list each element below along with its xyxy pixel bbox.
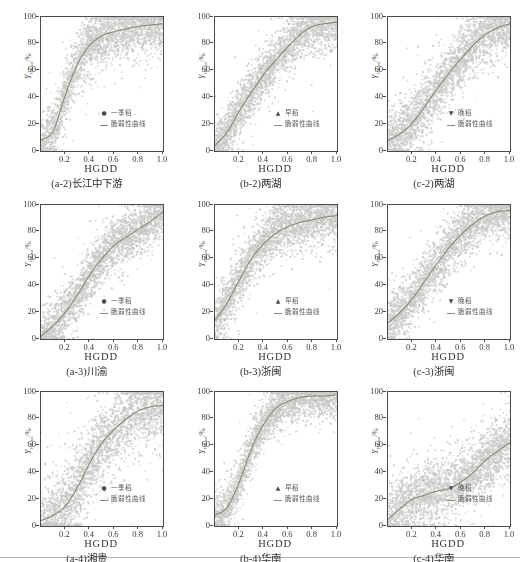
y-tick-mark	[383, 391, 386, 392]
scatter-plot-canvas	[41, 17, 163, 151]
y-tick-label: 100	[174, 11, 210, 21]
legend: ●一季稻 脆弱性曲线	[99, 295, 161, 317]
x-tick-label: 0.4	[257, 154, 268, 164]
y-tick-mark	[210, 525, 213, 526]
y-tick-label: 0	[347, 520, 383, 530]
y-tick-mark	[383, 257, 386, 258]
x-tick-label: 0.8	[132, 154, 143, 164]
y-tick-label: 20	[0, 118, 36, 128]
y-tick-label: 100	[174, 386, 210, 396]
x-axis-label: HGDD	[214, 163, 336, 174]
y-tick-mark	[36, 42, 39, 43]
legend-entry-samples: ▼晚稻	[446, 482, 508, 493]
series-label: 早稻	[285, 482, 299, 493]
curve-line-icon	[100, 125, 108, 126]
x-tick-label: 1.0	[504, 342, 515, 352]
x-tick-label: 0.6	[282, 342, 293, 352]
legend: ▲早稻 脆弱性曲线	[273, 107, 335, 129]
y-tick-label: 80	[0, 37, 36, 47]
series-label: 一季稻	[111, 295, 132, 306]
subplot-caption: (c-4)华南	[347, 550, 520, 562]
series-label: 一季稻	[111, 107, 132, 118]
y-tick-mark	[383, 230, 386, 231]
scatter-plot-canvas	[388, 205, 510, 339]
curve-line-icon	[447, 313, 455, 314]
y-tick-label: 80	[174, 225, 210, 235]
y-tick-mark	[36, 230, 39, 231]
x-tick-label: 0.2	[59, 529, 70, 539]
legend: ●一季稻 脆弱性曲线	[99, 482, 161, 504]
y-tick-label: 20	[347, 306, 383, 316]
y-tick-label: 40	[0, 279, 36, 289]
x-tick-label: 0.4	[83, 529, 94, 539]
y-tick-label: 80	[174, 412, 210, 422]
series-label: 晚稻	[458, 295, 472, 306]
y-tick-label: 0	[174, 145, 210, 155]
y-tick-mark	[383, 123, 386, 124]
y-tick-label: 80	[347, 37, 383, 47]
x-tick-label: 0.6	[282, 529, 293, 539]
y-tick-label: 40	[347, 466, 383, 476]
scatter-plot-canvas	[215, 17, 337, 151]
series-marker-icon: ●	[99, 295, 109, 306]
x-tick-label: 0.6	[108, 529, 119, 539]
y-tick-label: 40	[174, 279, 210, 289]
legend-entry-curve: 脆弱性曲线	[446, 493, 508, 504]
y-tick-label: 80	[0, 412, 36, 422]
curve-line-icon	[274, 500, 282, 501]
y-tick-mark	[210, 123, 213, 124]
y-tick-label: 0	[174, 333, 210, 343]
y-tick-label: 100	[347, 199, 383, 209]
y-tick-mark	[210, 42, 213, 43]
y-tick-mark	[383, 284, 386, 285]
legend-entry-samples: ●一季稻	[99, 482, 161, 493]
y-tick-label: 0	[347, 333, 383, 343]
curve-line-icon	[447, 125, 455, 126]
x-tick-label: 0.4	[430, 154, 441, 164]
y-tick-label: 40	[0, 91, 36, 101]
x-tick-label: 0.8	[306, 342, 317, 352]
y-tick-mark	[383, 471, 386, 472]
y-tick-label: 60	[174, 252, 210, 262]
legend-entry-curve: 脆弱性曲线	[99, 306, 161, 317]
x-tick-label: 0.8	[132, 342, 143, 352]
y-tick-label: 0	[347, 145, 383, 155]
legend: ●一季稻 脆弱性曲线	[99, 107, 161, 129]
y-tick-mark	[210, 69, 213, 70]
x-tick-label: 0.6	[108, 154, 119, 164]
subplot-b-4: YHloss/% ▲早稻 脆弱性曲线 HGDD (b-4)华南 0.20.40.…	[174, 375, 347, 562]
y-tick-mark	[210, 230, 213, 231]
y-tick-label: 60	[174, 64, 210, 74]
y-tick-mark	[210, 16, 213, 17]
subplot-a-2: YHloss/% ●一季稻 脆弱性曲线 HGDD (a-2)长江中下游 0.20…	[0, 0, 173, 187]
x-tick-label: 1.0	[331, 529, 342, 539]
x-tick-label: 1.0	[504, 529, 515, 539]
y-tick-mark	[383, 417, 386, 418]
legend: ▼晚稻 脆弱性曲线	[446, 295, 508, 317]
subplot-c-4: YHloss/% ▼晚稻 脆弱性曲线 HGDD (c-4)华南 0.20.40.…	[347, 375, 520, 562]
y-tick-mark	[383, 204, 386, 205]
y-tick-mark	[383, 498, 386, 499]
subplot-a-4: YHloss/% ●一季稻 脆弱性曲线 HGDD (a-4)湘贵 0.20.40…	[0, 375, 173, 562]
y-tick-label: 0	[174, 520, 210, 530]
x-tick-label: 0.8	[479, 529, 490, 539]
x-tick-label: 0.2	[59, 342, 70, 352]
y-tick-mark	[210, 150, 213, 151]
plot-area: ▼晚稻 脆弱性曲线	[387, 391, 511, 527]
x-tick-label: 0.4	[430, 342, 441, 352]
subplot-a-3: YHloss/% ●一季稻 脆弱性曲线 HGDD (a-3)川渝 0.20.40…	[0, 188, 173, 375]
x-tick-label: 0.2	[233, 342, 244, 352]
scatter-plot-canvas	[41, 205, 163, 339]
subplot-b-2: YHloss/% ▲早稻 脆弱性曲线 HGDD (b-2)两湖 0.20.40.…	[174, 0, 347, 187]
y-tick-label: 80	[0, 225, 36, 235]
x-tick-label: 0.8	[306, 154, 317, 164]
x-axis-label: HGDD	[214, 538, 336, 549]
scatter-plot-canvas	[388, 392, 510, 526]
y-tick-mark	[210, 284, 213, 285]
legend: ▼晚稻 脆弱性曲线	[446, 107, 508, 129]
y-tick-mark	[383, 311, 386, 312]
curve-label: 脆弱性曲线	[458, 493, 493, 504]
curve-label: 脆弱性曲线	[458, 306, 493, 317]
series-label: 早稻	[285, 295, 299, 306]
y-tick-label: 20	[347, 493, 383, 503]
